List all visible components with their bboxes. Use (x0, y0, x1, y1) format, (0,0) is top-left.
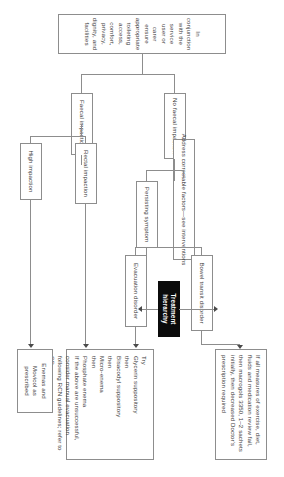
connector-hierarchy-up (179, 309, 215, 310)
connector-evacuation-steps (135, 327, 136, 345)
treatment-step-1: Glycerin suppository (131, 356, 139, 453)
connector-to-no-faecal (174, 74, 175, 93)
node-treatment-hierarchy-label: Treatment hierarchy (161, 285, 177, 333)
connector-to-evacuation (135, 247, 136, 255)
node-address-correctable-factors-label: Address correctable factors—see interven… (180, 134, 188, 266)
node-bowel-transit-disorder-label: Bowel transit disorder (198, 262, 206, 323)
flowchart-canvas: In conjunction with the service user or … (0, 0, 284, 477)
connector-rectal-steps (85, 204, 86, 345)
connector-to-high (30, 136, 31, 143)
node-macrogol-measures[interactable]: If all measures of exercise, diet, fluid… (215, 349, 267, 460)
connector-trunk-main (81, 74, 175, 75)
connector-root-out (142, 54, 143, 74)
connector-to-rectal (85, 136, 86, 143)
connector-hierarchy-down (140, 309, 158, 310)
treatment-step-2: then (123, 356, 131, 453)
connector-address-in (183, 170, 184, 178)
node-high-impaction[interactable]: High impaction (20, 143, 42, 200)
node-root[interactable]: In conjunction with the service user or … (58, 14, 226, 54)
node-rectal-impaction[interactable]: Rectal impaction (75, 143, 97, 204)
connector-high-enemas (30, 200, 31, 345)
connector-faecal-split (31, 136, 86, 137)
connector-to-persisting (146, 170, 147, 181)
connector-faecal-join (81, 125, 82, 136)
node-bowel-transit-disorder[interactable]: Bowel transit disorder (191, 255, 213, 331)
treatment-steps-list: Try Glycerin suppository then Bisacodyl … (47, 356, 148, 453)
treatment-step-7: Phosphate enema (81, 356, 89, 453)
connector-bowel-macrogol-v (201, 344, 240, 345)
arrowhead-hierarchy-down (138, 306, 142, 312)
connector-bowel-macrogol-h (201, 331, 202, 345)
arrowhead-hierarchy-up (214, 306, 218, 312)
connector-persisting-out (146, 248, 147, 260)
arrowhead-macrogol-in (237, 345, 243, 349)
node-root-label: In conjunction with the service user or … (82, 18, 202, 51)
node-persisting-symptom-label: Persisting symptom (143, 187, 151, 242)
treatment-step-3: Bisacodyl suppository (114, 356, 122, 453)
connector-to-bowel-transit (201, 247, 202, 255)
arrowhead-steps-in-evacuation (133, 344, 139, 348)
node-high-impaction-label: High impaction (27, 151, 35, 193)
diagram-rotator: In conjunction with the service user or … (0, 0, 284, 477)
treatment-step-0: Try (140, 356, 148, 453)
node-evacuation-disorder[interactable]: Evacuation disorder (125, 255, 147, 327)
node-enemas-movicol-label: Enemas and Movicol as prescribed (22, 353, 47, 409)
connector-to-faecal (81, 74, 82, 93)
node-treatment-hierarchy[interactable]: Treatment hierarchy (158, 281, 180, 337)
node-address-correctable-factors[interactable]: Address correctable factors—see interven… (173, 139, 195, 260)
node-persisting-symptom[interactable]: Persisting symptom (136, 181, 158, 248)
treatment-step-4: then (106, 356, 114, 453)
node-enemas-movicol[interactable]: Enemas and Movicol as prescribed (17, 349, 53, 413)
arrowhead-steps-in-rectal (83, 344, 89, 348)
treatment-step-6: then (89, 356, 97, 453)
connector-faecal-out (81, 155, 82, 165)
node-treatment-steps[interactable]: Try Glycerin suppository then Bisacodyl … (66, 349, 154, 460)
connector-address-trunk (147, 170, 184, 171)
treatment-step-5: Micro-enema (98, 356, 106, 453)
node-macrogol-measures-label: If all measures of exercise, diet, fluid… (220, 355, 262, 454)
connector-disorder-split (136, 247, 202, 248)
node-rectal-impaction-label: Rectal impaction (82, 150, 90, 197)
arrowhead-enemas-in (28, 344, 34, 348)
